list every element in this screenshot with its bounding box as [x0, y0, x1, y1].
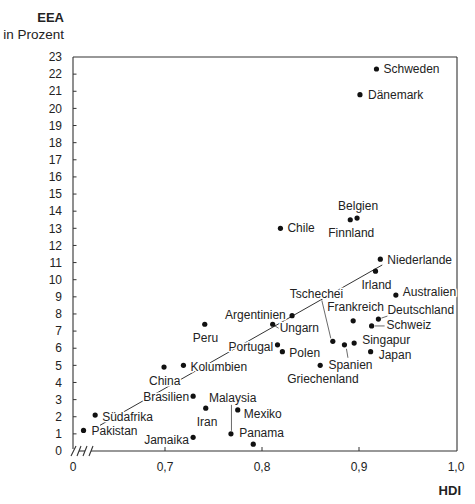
point-label-finnland: Finnland [328, 226, 374, 240]
point-label-jamaika: Jamaika [144, 433, 189, 447]
point-label-irland: Irland [361, 278, 391, 292]
y-tick-label: 1 [55, 427, 62, 441]
point-label-suedafrika: Südafrika [102, 410, 153, 424]
point-label-mexiko: Mexiko [244, 407, 282, 421]
point-label-chile: Chile [287, 221, 315, 235]
data-point-japan [368, 349, 373, 354]
data-point-daenemark [357, 92, 362, 97]
data-point-malaysia [228, 431, 233, 436]
axis-break-icon [71, 446, 93, 456]
point-label-iran: Iran [197, 415, 218, 429]
data-point-pakistan [81, 428, 86, 433]
data-point-portugal [275, 342, 280, 347]
y-axis-title: EEA [37, 10, 64, 25]
data-point-schweiz [369, 323, 374, 328]
point-label-griechenland: Griechenland [287, 372, 358, 386]
data-point-finnland [348, 217, 353, 222]
data-point-deutschland [376, 316, 381, 321]
x-tick-label: 1,0 [448, 460, 465, 474]
point-label-singapur: Singapur [362, 333, 410, 347]
leader-line-spanien [346, 349, 348, 358]
point-label-frankreich: Frankreich [327, 300, 384, 314]
point-label-brasilien: Brasilien [143, 390, 189, 404]
data-point-belgien [354, 215, 359, 220]
data-point-polen [280, 349, 285, 354]
point-label-tschechei: Tschechei [290, 287, 343, 301]
y-tick-label: 10 [49, 273, 63, 287]
point-label-niederlande: Niederlande [387, 253, 452, 267]
data-point-niederlande [378, 257, 383, 262]
y-tick-label: 6 [55, 341, 62, 355]
point-label-schweden: Schweden [383, 62, 439, 76]
point-label-china: China [149, 374, 181, 388]
point-label-panama: Panama [239, 426, 284, 440]
y-tick-label: 0 [55, 444, 62, 458]
y-tick-label: 22 [49, 67, 63, 81]
point-label-portugal: Portugal [229, 340, 274, 354]
point-labels: SchwedenDänemarkBelgienFinnlandChileNied… [92, 62, 457, 447]
y-tick-label: 13 [49, 222, 63, 236]
data-point-singapur [352, 340, 357, 345]
point-label-polen: Polen [289, 346, 320, 360]
y-tick-label: 3 [55, 393, 62, 407]
y-tick-label: 19 [49, 119, 63, 133]
data-point-china [161, 364, 166, 369]
y-tick-label: 5 [55, 359, 62, 373]
point-label-peru: Peru [193, 331, 218, 345]
y-tick-label: 7 [55, 324, 62, 338]
x-axis-title: HDI [439, 483, 461, 498]
data-point-frankreich [351, 318, 356, 323]
data-point-mexiko [235, 407, 240, 412]
y-tick-label: 11 [50, 256, 63, 270]
leader-line-ungarn [275, 326, 279, 329]
point-label-ungarn: Ungarn [280, 321, 319, 335]
y-tick-label: 18 [49, 136, 63, 150]
data-point-australien [393, 293, 398, 298]
data-point-chile [278, 226, 283, 231]
point-label-japan: Japan [379, 348, 412, 362]
data-point-iran [203, 406, 208, 411]
y-tick-label: 17 [49, 153, 63, 167]
data-points [81, 66, 399, 446]
data-point-griechenland [318, 363, 323, 368]
point-label-belgien: Belgien [338, 199, 378, 213]
point-label-pakistan: Pakistan [92, 424, 138, 438]
point-label-australien: Australien [403, 285, 456, 299]
point-label-spanien: Spanien [328, 358, 372, 372]
y-tick-label: 16 [49, 170, 63, 184]
point-label-daenemark: Dänemark [368, 88, 424, 102]
y-tick-label: 8 [55, 307, 62, 321]
y-tick-label: 15 [49, 187, 63, 201]
data-point-peru [202, 322, 207, 327]
x-tick-label: 0,7 [157, 460, 174, 474]
point-label-malaysia: Malaysia [209, 391, 257, 405]
y-axis-ticks: 01234567891011121314151617181920212223 [49, 50, 77, 458]
data-point-kolumbien [181, 363, 186, 368]
data-point-panama [251, 442, 256, 447]
x-tick-label: 0,9 [351, 460, 368, 474]
data-point-jamaika [191, 435, 196, 440]
data-point-irland [373, 269, 378, 274]
data-point-ungarn [270, 322, 275, 327]
y-tick-label: 20 [49, 102, 63, 116]
y-tick-label: 2 [55, 410, 62, 424]
y-tick-label: 9 [55, 290, 62, 304]
y-axis-unit: in Prozent [3, 27, 64, 42]
point-label-kolumbien: Kolumbien [190, 360, 247, 374]
point-label-deutschland: Deutschland [387, 303, 454, 317]
data-point-spanien [342, 342, 347, 347]
scatter-chart: EEA in Prozent HDI 012345678910111213141… [0, 0, 475, 504]
y-tick-label: 23 [49, 50, 63, 64]
data-point-schweden [374, 66, 379, 71]
x-tick-label: 0 [70, 460, 77, 474]
y-tick-label: 12 [49, 239, 63, 253]
data-point-brasilien [191, 394, 196, 399]
y-tick-label: 21 [49, 84, 63, 98]
point-label-argentinien: Argentinien [225, 308, 286, 322]
data-point-tschechei [330, 339, 335, 344]
x-tick-label: 0,8 [254, 460, 271, 474]
y-tick-label: 14 [49, 204, 63, 218]
data-point-suedafrika [93, 412, 98, 417]
point-label-schweiz: Schweiz [387, 318, 432, 332]
data-point-argentinien [289, 313, 294, 318]
